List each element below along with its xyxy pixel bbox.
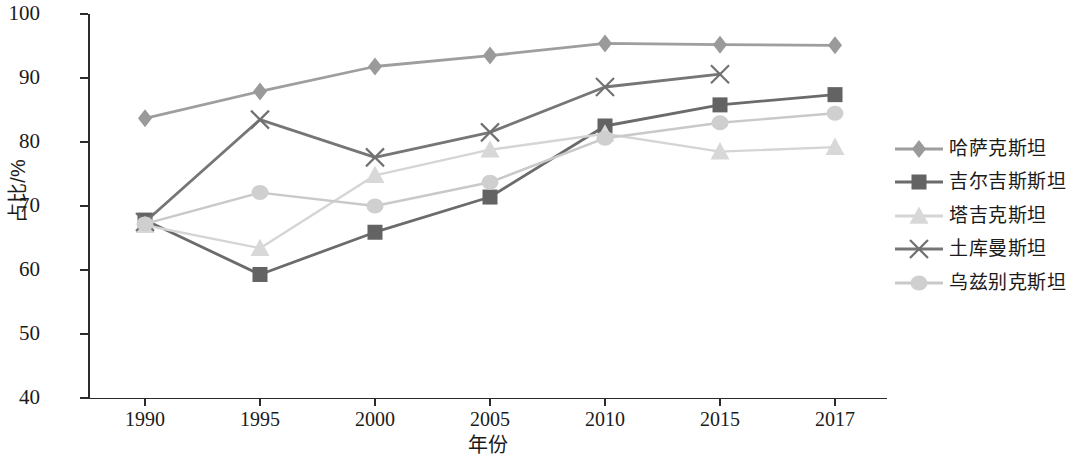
data-point-marker bbox=[251, 111, 269, 129]
x-axis-tick bbox=[374, 398, 376, 406]
series-canvas bbox=[88, 14, 886, 398]
legend-item-1[interactable]: 哈萨克斯坦 bbox=[893, 132, 1076, 166]
diamond-marker bbox=[893, 137, 945, 161]
x-axis-tick-label: 2017 bbox=[785, 408, 885, 430]
data-point-marker bbox=[253, 82, 267, 100]
x-axis-tick bbox=[489, 398, 491, 406]
legend-item-3[interactable]: 塔吉克斯坦 bbox=[893, 199, 1076, 233]
data-point-marker bbox=[828, 87, 843, 102]
data-point-marker bbox=[483, 190, 498, 205]
x-marker bbox=[893, 237, 945, 261]
legend-item-label: 土库曼斯坦 bbox=[945, 238, 1047, 260]
x-axis-tick bbox=[144, 398, 146, 406]
series-1 bbox=[138, 34, 842, 127]
x-axis-tick-label: 2005 bbox=[440, 408, 540, 430]
data-point-marker bbox=[368, 225, 383, 240]
legend-item-label: 塔吉克斯坦 bbox=[945, 205, 1047, 227]
data-point-marker bbox=[252, 185, 269, 200]
y-axis-tick bbox=[80, 333, 88, 335]
y-axis-tick-label: 50 bbox=[0, 323, 40, 344]
y-axis-tick-label: 90 bbox=[0, 67, 40, 88]
y-axis-tick bbox=[80, 13, 88, 15]
data-point-marker bbox=[368, 57, 382, 75]
legend-item-5[interactable]: 乌兹别克斯坦 bbox=[893, 266, 1076, 300]
y-axis-tick-label: 40 bbox=[0, 387, 40, 408]
legend-item-2[interactable]: 吉尔吉斯斯坦 bbox=[893, 166, 1076, 200]
x-axis-tick bbox=[604, 398, 606, 406]
legend: 哈萨克斯坦吉尔吉斯斯坦塔吉克斯坦土库曼斯坦乌兹别克斯坦 bbox=[893, 132, 1076, 300]
triangle-marker bbox=[893, 204, 945, 228]
legend-item-label: 乌兹别克斯坦 bbox=[945, 272, 1066, 294]
legend-item-4[interactable]: 土库曼斯坦 bbox=[893, 233, 1076, 267]
data-point-marker bbox=[712, 115, 729, 130]
y-axis-tick bbox=[80, 397, 88, 399]
square-marker bbox=[893, 170, 945, 194]
x-axis-tick-label: 2015 bbox=[670, 408, 770, 430]
data-point-marker bbox=[253, 267, 268, 282]
y-axis-tick bbox=[80, 205, 88, 207]
x-axis-tick bbox=[834, 398, 836, 406]
x-axis-title: 年份 bbox=[0, 434, 975, 456]
data-point-marker bbox=[828, 36, 842, 54]
legend-item-label: 哈萨克斯坦 bbox=[945, 138, 1047, 160]
y-axis-tick-label: 100 bbox=[0, 3, 40, 24]
x-axis-tick bbox=[719, 398, 721, 406]
x-axis-tick-label: 1995 bbox=[210, 408, 310, 430]
x-axis-tick-label: 1990 bbox=[95, 408, 195, 430]
data-point-marker bbox=[137, 216, 154, 231]
circle-marker bbox=[893, 271, 945, 295]
plot-area bbox=[88, 14, 886, 398]
data-point-marker bbox=[713, 36, 727, 54]
y-axis-tick-label: 60 bbox=[0, 259, 40, 280]
x-axis-tick bbox=[259, 398, 261, 406]
y-axis-tick bbox=[80, 77, 88, 79]
data-point-marker bbox=[138, 109, 152, 127]
x-axis-tick-label: 2010 bbox=[555, 408, 655, 430]
y-axis-tick bbox=[80, 269, 88, 271]
legend-item-label: 吉尔吉斯斯坦 bbox=[945, 171, 1066, 193]
data-point-marker bbox=[598, 34, 612, 52]
y-axis-tick bbox=[80, 141, 88, 143]
series-4 bbox=[136, 65, 729, 231]
data-point-marker bbox=[597, 131, 614, 146]
series-5 bbox=[137, 106, 844, 232]
data-point-marker bbox=[827, 106, 844, 121]
x-axis-tick-label: 2000 bbox=[325, 408, 425, 430]
y-axis-title: 占比/% bbox=[7, 121, 29, 261]
data-point-marker bbox=[483, 47, 497, 65]
data-point-marker bbox=[713, 97, 728, 112]
data-point-marker bbox=[482, 175, 499, 190]
line-chart-figure: 100908070605040 199019952000200520102015… bbox=[0, 0, 1076, 466]
data-point-marker bbox=[367, 199, 384, 214]
